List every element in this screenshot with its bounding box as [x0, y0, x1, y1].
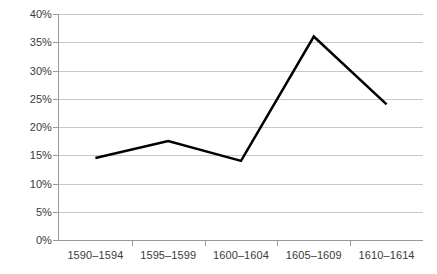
y-axis-tick-label: 10% — [0, 178, 52, 189]
x-axis-tick-mark — [350, 241, 351, 246]
y-axis-tick-mark — [53, 155, 59, 156]
line-chart: 0%5%10%15%20%25%30%35%40% 1590–15941595–… — [0, 0, 437, 274]
x-axis-tick-mark — [277, 241, 278, 246]
y-axis-tick-mark — [53, 14, 59, 15]
series-line-group — [59, 14, 423, 240]
y-axis-tick-label: 0% — [0, 235, 52, 246]
x-axis-tick-label: 1590–1594 — [67, 250, 123, 261]
y-axis-tick-mark — [53, 42, 59, 43]
y-axis-tick-mark — [53, 127, 59, 128]
x-axis-tick-mark — [132, 241, 133, 246]
y-axis-tick-label: 5% — [0, 206, 52, 217]
y-axis-tick-mark — [53, 99, 59, 100]
y-axis-tick-label: 30% — [0, 65, 52, 76]
plot-area — [59, 14, 423, 240]
gridline-0pct — [59, 240, 423, 241]
y-axis-tick-mark — [53, 71, 59, 72]
y-axis-tick-label: 20% — [0, 122, 52, 133]
x-axis-tick-label: 1595–1599 — [140, 250, 196, 261]
y-axis-tick-label: 25% — [0, 93, 52, 104]
x-axis-tick-label: 1605–1609 — [286, 250, 342, 261]
y-axis-tick-label: 15% — [0, 150, 52, 161]
y-axis-tick-label: 40% — [0, 9, 52, 20]
y-axis-tick-mark — [53, 184, 59, 185]
series-line-0 — [95, 37, 386, 161]
x-axis-tick-mark — [205, 241, 206, 246]
x-axis-tick-labels: 1590–15941595–15991600–16041605–16091610… — [59, 250, 423, 272]
y-axis-tick-labels: 0%5%10%15%20%25%30%35%40% — [0, 0, 52, 274]
x-axis-tick-label: 1600–1604 — [213, 250, 269, 261]
y-axis-tick-label: 35% — [0, 37, 52, 48]
y-axis-tick-mark — [53, 240, 59, 241]
x-axis-tick-label: 1610–1614 — [359, 250, 415, 261]
y-axis-tick-mark — [53, 212, 59, 213]
